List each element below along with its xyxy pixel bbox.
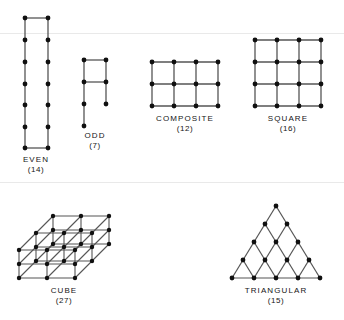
figure-triangular [230, 204, 323, 281]
label-odd-count: (7) [65, 141, 125, 151]
label-cube-count: (27) [34, 296, 94, 306]
label-triangular-name: TRIANGULAR [245, 286, 308, 295]
figure-square [253, 38, 324, 109]
label-composite: COMPOSITE (12) [145, 114, 225, 134]
label-even-name: EVEN [23, 155, 49, 164]
figure-even [23, 16, 51, 151]
label-cube-name: CUBE [51, 286, 78, 295]
label-odd-name: ODD [84, 131, 105, 140]
figure-cube [17, 214, 111, 280]
label-odd: ODD (7) [65, 131, 125, 151]
label-even-count: (14) [6, 165, 66, 175]
label-triangular-count: (15) [231, 296, 321, 306]
label-square-name: SQUARE [268, 114, 308, 123]
label-cube: CUBE (27) [34, 286, 94, 306]
label-composite-name: COMPOSITE [156, 114, 214, 123]
label-triangular: TRIANGULAR (15) [231, 286, 321, 306]
figure-odd [82, 58, 109, 129]
label-square: SQUARE (16) [248, 114, 328, 134]
figure-composite [150, 60, 221, 109]
label-square-count: (16) [248, 124, 328, 134]
label-even: EVEN (14) [6, 155, 66, 175]
label-composite-count: (12) [145, 124, 225, 134]
